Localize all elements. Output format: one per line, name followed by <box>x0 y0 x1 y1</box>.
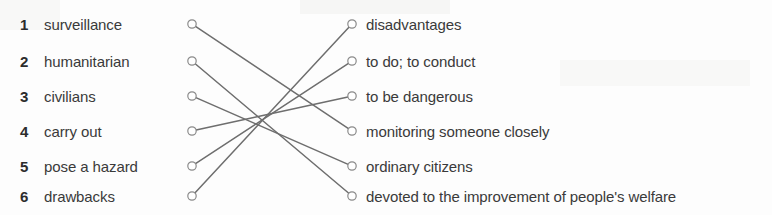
term-number: 3 <box>20 88 36 105</box>
term-label: pose a hazard <box>44 158 138 175</box>
definition-row[interactable]: ordinary citizens <box>366 154 772 178</box>
term-row[interactable]: 2 humanitarian <box>20 49 192 73</box>
terms-column: 1 surveillance 2 humanitarian 3 civilian… <box>0 0 192 215</box>
connection-lines[interactable] <box>195 26 349 193</box>
right-connector-dots[interactable] <box>348 20 356 200</box>
definition-label: monitoring someone closely <box>366 123 549 140</box>
term-number: 4 <box>20 123 36 140</box>
term-label: humanitarian <box>44 53 130 70</box>
definition-row[interactable]: devoted to the improvement of people's w… <box>366 184 772 208</box>
term-label: carry out <box>44 123 101 140</box>
term-row[interactable]: 6 drawbacks <box>20 184 192 208</box>
matching-exercise: 1 surveillance 2 humanitarian 3 civilian… <box>0 0 772 215</box>
definition-label: to do; to conduct <box>366 53 475 70</box>
term-row[interactable]: 1 surveillance <box>20 12 192 36</box>
term-label: civilians <box>44 88 96 105</box>
connection-line[interactable] <box>195 64 349 194</box>
term-label: surveillance <box>44 16 122 33</box>
term-number: 5 <box>20 158 36 175</box>
definition-row[interactable]: monitoring someone closely <box>366 119 772 143</box>
term-row[interactable]: 3 civilians <box>20 84 192 108</box>
term-row[interactable]: 5 pose a hazard <box>20 154 192 178</box>
definition-label: disadvantages <box>366 16 461 33</box>
right-connector-dot[interactable] <box>348 92 356 100</box>
right-connector-dot[interactable] <box>348 162 356 170</box>
right-connector-dot[interactable] <box>348 57 356 65</box>
definitions-column: disadvantages to do; to conduct to be da… <box>366 0 772 215</box>
connection-line[interactable] <box>196 97 348 130</box>
term-number: 2 <box>20 53 36 70</box>
definition-label: devoted to the improvement of people's w… <box>366 188 676 205</box>
connection-line[interactable] <box>196 63 349 163</box>
connection-line[interactable] <box>195 27 349 193</box>
term-number: 6 <box>20 188 36 205</box>
definition-label: ordinary citizens <box>366 158 473 175</box>
definition-row[interactable]: to do; to conduct <box>366 49 772 73</box>
connection-line[interactable] <box>195 26 348 128</box>
definition-label: to be dangerous <box>366 88 473 105</box>
right-connector-dot[interactable] <box>348 20 356 28</box>
term-label: drawbacks <box>44 188 115 205</box>
definition-row[interactable]: to be dangerous <box>366 84 772 108</box>
definition-row[interactable]: disadvantages <box>366 12 772 36</box>
term-number: 1 <box>20 16 36 33</box>
term-row[interactable]: 4 carry out <box>20 119 192 143</box>
connection-line[interactable] <box>196 98 348 165</box>
right-connector-dot[interactable] <box>348 127 356 135</box>
right-connector-dot[interactable] <box>348 192 356 200</box>
